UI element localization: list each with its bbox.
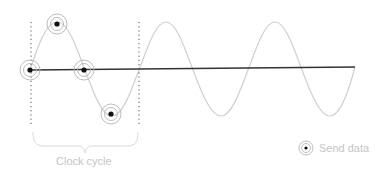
clock-cycle-brace: [33, 132, 138, 153]
send-data-marker-icon: [299, 141, 313, 155]
send-data-marker-peak: [47, 14, 67, 34]
legend-send-data-label: Send data: [319, 142, 369, 154]
clock-cycle-label: Clock cycle: [56, 155, 112, 167]
